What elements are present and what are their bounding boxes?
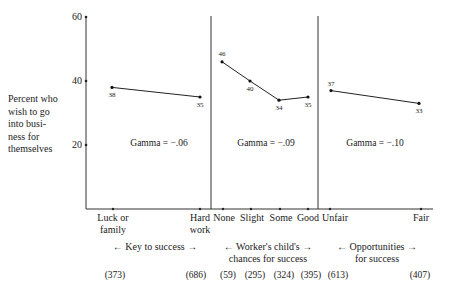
point-label: 33 bbox=[416, 107, 423, 115]
series-line-key-to-success bbox=[112, 87, 200, 97]
x-category-label: Luck or family bbox=[97, 212, 128, 236]
x-category-label: Hard work bbox=[190, 212, 211, 236]
point-label: 37 bbox=[328, 80, 335, 88]
x-category-label: Fair bbox=[413, 212, 429, 224]
group-label-key-to-success: ← Key to success → bbox=[113, 241, 197, 253]
gamma-annotation: Gamma = −.06 bbox=[130, 138, 187, 148]
point-label: 35 bbox=[197, 101, 204, 109]
sample-size: (407) bbox=[410, 270, 431, 280]
sample-size: (613) bbox=[328, 270, 349, 280]
x-category-label: Some bbox=[270, 212, 293, 224]
point-label: 38 bbox=[109, 91, 116, 99]
y-tick-40: 40 bbox=[72, 75, 82, 86]
x-category-label: None bbox=[213, 212, 235, 224]
x-category-label: Good bbox=[297, 212, 319, 224]
x-category-label: Unfair bbox=[322, 212, 348, 224]
point-label: 35 bbox=[305, 101, 312, 109]
point-label: 46 bbox=[219, 50, 226, 58]
gamma-annotation: Gamma = −.09 bbox=[237, 138, 294, 148]
sample-size: (324) bbox=[274, 270, 295, 280]
sample-size: (295) bbox=[245, 270, 266, 280]
y-tick-20: 20 bbox=[72, 139, 82, 150]
point-label: 40 bbox=[247, 85, 254, 93]
sample-size: (59) bbox=[220, 270, 236, 280]
sample-size: (373) bbox=[105, 270, 126, 280]
gamma-annotation: Gamma = −.10 bbox=[346, 138, 403, 148]
sample-size: (686) bbox=[186, 270, 207, 280]
group-label-opportunities: ← Opportunities → for success bbox=[337, 241, 417, 265]
point-label: 34 bbox=[276, 104, 283, 112]
group-label-childs-chances: ← Worker's child's → chances for success bbox=[224, 241, 312, 265]
series-line-childs-chances bbox=[222, 62, 308, 100]
y-axis-label: Percent who wish to go into busi- ness f… bbox=[8, 93, 72, 156]
sample-size: (395) bbox=[301, 270, 322, 280]
x-category-label: Slight bbox=[240, 212, 264, 224]
series-line-opportunities bbox=[331, 91, 419, 104]
y-tick-60: 60 bbox=[72, 11, 82, 22]
